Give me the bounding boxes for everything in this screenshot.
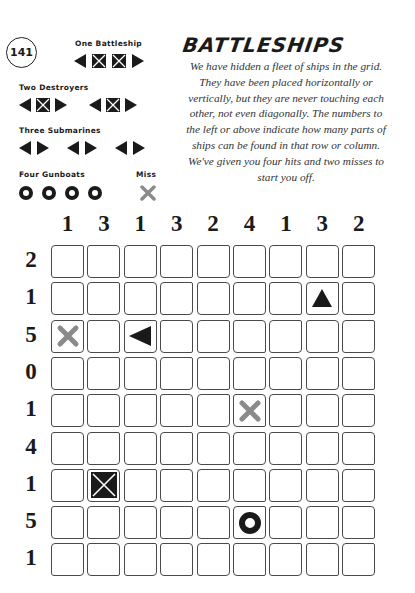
miss-label: Miss <box>136 170 156 179</box>
grid-cell-r2-c8[interactable] <box>306 282 339 315</box>
grid-cell-r7-c9[interactable] <box>342 469 375 502</box>
grid-cell-r3-c8[interactable] <box>306 320 339 353</box>
grid-cell-r2-c7[interactable] <box>269 282 302 315</box>
grid-cell-r1-c5[interactable] <box>197 245 230 278</box>
grid-cell-r9-c7[interactable] <box>269 543 302 576</box>
grid-cell-r3-c1[interactable] <box>51 320 84 353</box>
grid-cell-r4-c8[interactable] <box>306 357 339 390</box>
grid-cell-r9-c8[interactable] <box>306 543 339 576</box>
grid-cell-r5-c4[interactable] <box>160 394 193 427</box>
grid-cell-r1-c1[interactable] <box>51 245 84 278</box>
grid-cell-r1-c3[interactable] <box>124 245 157 278</box>
grid-cell-r9-c4[interactable] <box>160 543 193 576</box>
column-clue: 2 <box>342 211 375 237</box>
grid-cell-r6-c4[interactable] <box>160 432 193 465</box>
grid-cell-r9-c9[interactable] <box>342 543 375 576</box>
grid-cell-r8-c7[interactable] <box>269 506 302 539</box>
instructions-text: We have hidden a fleet of ships in the g… <box>186 59 386 185</box>
battleship-legend <box>74 54 144 68</box>
grid-cell-r2-c3[interactable] <box>124 282 157 315</box>
grid-cell-r2-c1[interactable] <box>51 282 84 315</box>
grid-cell-r8-c6[interactable] <box>233 506 266 539</box>
grid-cell-r8-c8[interactable] <box>306 506 339 539</box>
grid-cell-r2-c4[interactable] <box>160 282 193 315</box>
grid-cell-r1-c6[interactable] <box>233 245 266 278</box>
grid-cell-r4-c7[interactable] <box>269 357 302 390</box>
grid-cell-r7-c1[interactable] <box>51 469 84 502</box>
grid-cell-r1-c9[interactable] <box>342 245 375 278</box>
grid-cell-r6-c8[interactable] <box>306 432 339 465</box>
grid-cell-r8-c5[interactable] <box>197 506 230 539</box>
grid-cell-r8-c2[interactable] <box>87 506 120 539</box>
ship-end-left-icon <box>115 141 127 155</box>
grid-cell-r8-c9[interactable] <box>342 506 375 539</box>
grid-cell-r3-c9[interactable] <box>342 320 375 353</box>
grid-cell-r1-c2[interactable] <box>87 245 120 278</box>
grid-cell-r7-c8[interactable] <box>306 469 339 502</box>
grid-cell-r8-c4[interactable] <box>160 506 193 539</box>
grid-cell-r6-c2[interactable] <box>87 432 120 465</box>
grid-cell-r4-c6[interactable] <box>233 357 266 390</box>
grid-cell-r6-c1[interactable] <box>51 432 84 465</box>
grid-cell-r6-c9[interactable] <box>342 432 375 465</box>
grid-cell-r7-c6[interactable] <box>233 469 266 502</box>
grid-cell-r5-c1[interactable] <box>51 394 84 427</box>
grid-cell-r7-c4[interactable] <box>160 469 193 502</box>
grid-cell-r4-c4[interactable] <box>160 357 193 390</box>
grid-cell-r4-c2[interactable] <box>87 357 120 390</box>
grid-cell-r3-c4[interactable] <box>160 320 193 353</box>
grid-cell-r3-c6[interactable] <box>233 320 266 353</box>
grid-cell-r7-c3[interactable] <box>124 469 157 502</box>
grid-cell-r9-c3[interactable] <box>124 543 157 576</box>
grid-cell-r3-c2[interactable] <box>87 320 120 353</box>
grid-cell-r1-c8[interactable] <box>306 245 339 278</box>
ship-middle-icon <box>106 98 120 112</box>
grid-cell-r6-c3[interactable] <box>124 432 157 465</box>
grid-cell-r5-c7[interactable] <box>269 394 302 427</box>
grid-cell-r4-c5[interactable] <box>197 357 230 390</box>
grid-cell-r2-c5[interactable] <box>197 282 230 315</box>
gunboat-icon <box>19 186 33 200</box>
grid-cell-r4-c3[interactable] <box>124 357 157 390</box>
grid-cell-r1-c4[interactable] <box>160 245 193 278</box>
ship-end-left-icon <box>67 141 79 155</box>
grid-cell-r6-c7[interactable] <box>269 432 302 465</box>
grid-cell-r2-c2[interactable] <box>87 282 120 315</box>
column-clue: 3 <box>160 211 193 237</box>
grid-cell-r5-c3[interactable] <box>124 394 157 427</box>
grid-cell-r5-c6[interactable] <box>233 394 266 427</box>
grid-cell-r3-c7[interactable] <box>269 320 302 353</box>
grid-cell-r5-c8[interactable] <box>306 394 339 427</box>
grid-cell-r8-c3[interactable] <box>124 506 157 539</box>
grid-cell-r9-c5[interactable] <box>197 543 230 576</box>
grid-cell-r9-c1[interactable] <box>51 543 84 576</box>
grid-cell-r5-c5[interactable] <box>197 394 230 427</box>
grid-cell-r4-c1[interactable] <box>51 357 84 390</box>
grid-cell-r2-c9[interactable] <box>342 282 375 315</box>
grid-cell-r1-c7[interactable] <box>269 245 302 278</box>
grid-cell-r3-c3[interactable] <box>124 320 157 353</box>
ship-middle-icon <box>36 98 50 112</box>
row-clue: 2 <box>20 247 42 273</box>
grid-cell-r2-c6[interactable] <box>233 282 266 315</box>
grid-cell-r5-c2[interactable] <box>87 394 120 427</box>
ship-middle-icon <box>91 472 117 498</box>
grid-cell-r9-c6[interactable] <box>233 543 266 576</box>
grid-cell-r6-c5[interactable] <box>197 432 230 465</box>
gunboat-icon <box>239 512 261 534</box>
miss-icon <box>238 399 262 423</box>
row-clue: 4 <box>20 434 42 460</box>
grid-cell-r3-c5[interactable] <box>197 320 230 353</box>
grid-cell-r6-c6[interactable] <box>233 432 266 465</box>
grid-cell-r7-c2[interactable] <box>87 469 120 502</box>
gunboats-legend <box>19 186 102 200</box>
miss-icon <box>56 324 80 348</box>
submarines-label: Three Submarines <box>19 126 101 135</box>
grid-cell-r9-c2[interactable] <box>87 543 120 576</box>
grid-cell-r7-c7[interactable] <box>269 469 302 502</box>
grid-cell-r8-c1[interactable] <box>51 506 84 539</box>
grid-cell-r4-c9[interactable] <box>342 357 375 390</box>
row-clue: 5 <box>20 508 42 534</box>
grid-cell-r5-c9[interactable] <box>342 394 375 427</box>
grid-cell-r7-c5[interactable] <box>197 469 230 502</box>
